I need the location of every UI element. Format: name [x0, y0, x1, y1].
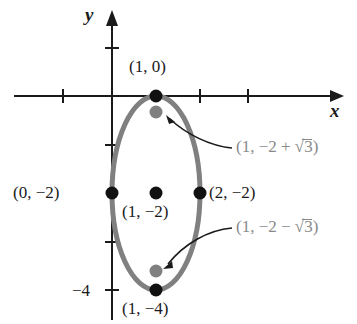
lower-annotation-leader	[168, 228, 232, 264]
point-center	[150, 187, 163, 200]
point-focus-upper	[150, 106, 163, 119]
upper-annotation-leader	[170, 119, 232, 148]
label-focus-upper-prefix: (1, −2 +	[236, 137, 295, 156]
ellipse-figure: y x −4 (1, 0) (0, −2) (2, −2) (1, −2) (1…	[0, 0, 357, 324]
y-axis-label: y	[85, 5, 93, 24]
graph-canvas	[0, 0, 357, 324]
point-focus-lower	[150, 265, 163, 278]
y-axis-arrowhead	[106, 10, 118, 26]
label-left-covertex: (0, −2)	[13, 184, 59, 201]
label-focus-upper: (1, −2 + √3)	[236, 138, 318, 155]
label-focus-lower-prefix: (1, −2 −	[236, 217, 295, 236]
point-right-covertex	[194, 187, 207, 200]
label-focus-lower: (1, −2 − √3)	[236, 218, 318, 235]
sqrt-upper-bar	[302, 139, 312, 140]
label-focus-lower-suffix: )	[313, 217, 319, 236]
point-bottom-vertex	[150, 284, 163, 297]
point-left-covertex	[106, 187, 119, 200]
y-tick-label-neg4: −4	[72, 282, 90, 299]
sqrt-lower: √3	[295, 218, 313, 235]
x-axis-label: x	[330, 101, 340, 120]
sqrt-lower-bar	[302, 219, 312, 220]
point-top-vertex	[150, 90, 163, 103]
label-right-covertex: (2, −2)	[209, 184, 255, 201]
label-bottom-vertex: (1, −4)	[122, 300, 168, 317]
sqrt-upper: √3	[295, 138, 313, 155]
lower-annotation-arrowhead	[163, 261, 173, 269]
label-top-vertex: (1, 0)	[129, 58, 166, 75]
label-focus-upper-suffix: )	[313, 137, 319, 156]
label-center: (1, −2)	[122, 203, 168, 220]
